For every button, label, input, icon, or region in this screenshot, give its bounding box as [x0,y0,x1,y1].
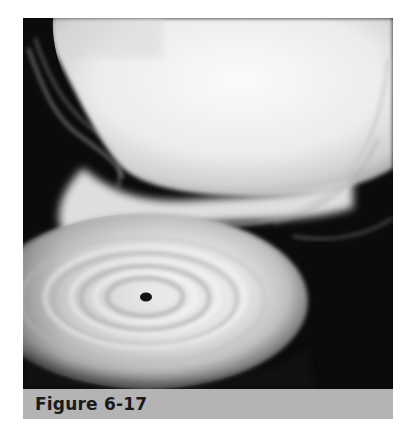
accretion-disk-illustration [23,18,393,389]
black-hole-icon [140,293,152,302]
figure-illustration [23,18,393,389]
figure-caption: Figure 6-17 [35,394,147,414]
figure: Figure 6-17 [23,18,393,419]
figure-caption-bar: Figure 6-17 [23,389,393,419]
